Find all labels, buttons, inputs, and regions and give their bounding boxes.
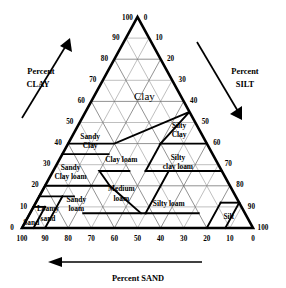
silt-tick-70: 70 — [225, 160, 233, 168]
region-label-silt-line1: Silt — [223, 212, 234, 221]
silt-axis-arrow-shaft — [197, 42, 239, 113]
region-label-sandy-clay-loam-line1: Sandy — [61, 163, 81, 172]
region-label-silt: Silt — [223, 212, 234, 221]
clay-tick-20: 20 — [32, 181, 40, 189]
region-label-sandy-clay: SandyClay — [80, 132, 100, 150]
sand-axis-title: Percent SAND — [112, 274, 164, 283]
clay-tick-60: 60 — [78, 97, 86, 105]
sand-tick-60: 60 — [111, 235, 119, 243]
region-label-sandy-clay-loam: SandyClay loam — [54, 163, 87, 181]
region-label-silty-clay-loam-line1: Silty — [171, 153, 186, 162]
region-label-silty-clay: SiltyClay — [172, 121, 187, 139]
silt-tick-20: 20 — [167, 55, 175, 63]
silt-tick-100: 100 — [258, 224, 269, 232]
sand-tick-0: 0 — [251, 235, 255, 243]
region-label-sand: Sand — [23, 218, 40, 227]
region-label-loamy-sand-line1: Loamy — [37, 204, 59, 213]
clay-tick-70: 70 — [89, 76, 97, 84]
silt-tick-0: 0 — [144, 14, 148, 22]
region-label-loamy-sand: Loamysand — [37, 204, 59, 222]
region-label-silty-loam-line1: Silty loam — [153, 199, 186, 208]
ternary-plot-svg: 1009080706050403020100 01020304050607080… — [0, 0, 286, 288]
sand-axis-tick-labels: 1009080706050403020100 — [17, 235, 256, 243]
soil-texture-triangle-diagram: 1009080706050403020100 01020304050607080… — [0, 0, 286, 288]
clay-axis-title-group: Percent CLAY — [22, 38, 72, 118]
clay-tick-30: 30 — [43, 160, 51, 168]
sand-axis-arrow-head — [48, 257, 62, 267]
region-label-sandy-loam: Sandyloam — [66, 195, 86, 213]
region-label-sandy-clay-loam-line2: Clay loam — [54, 172, 87, 181]
clay-tick-0: 0 — [10, 224, 14, 232]
silt-tick-50: 50 — [202, 118, 210, 126]
sand-tick-90: 90 — [42, 235, 50, 243]
silt-tick-30: 30 — [179, 76, 187, 84]
region-label-medium-loam-line1: Medium — [108, 184, 136, 193]
clay-tick-90: 90 — [112, 34, 120, 42]
region-label-sandy-clay-line2: Clay — [83, 141, 98, 150]
sand-tick-40: 40 — [157, 235, 165, 243]
sand-tick-70: 70 — [88, 235, 96, 243]
silt-axis-title-group: Percent SILT — [197, 42, 259, 120]
clay-tick-50: 50 — [66, 118, 74, 126]
region-label-clay-loam-line1: Clay loam — [105, 155, 138, 164]
silt-axis-title-line1: Percent — [231, 67, 258, 76]
region-label-clay-line1: Clay — [134, 90, 155, 102]
clay-axis-arrow-head — [60, 38, 72, 52]
region-label-clay: Clay — [134, 90, 155, 102]
sand-tick-80: 80 — [65, 235, 73, 243]
region-label-silty-clay-line2: Clay — [172, 130, 187, 139]
clay-tick-10: 10 — [20, 203, 28, 211]
grid-line-silt-70 — [184, 165, 219, 228]
silt-axis-title-line2: SILT — [236, 80, 255, 89]
region-label-silty-clay-loam-line2: clay loam — [163, 162, 194, 171]
sand-tick-100: 100 — [17, 235, 28, 243]
class-boundary-3 — [146, 144, 161, 171]
class-boundary-15 — [207, 203, 221, 228]
clay-tick-100: 100 — [122, 14, 133, 22]
sand-tick-20: 20 — [203, 235, 211, 243]
region-label-sandy-loam-line2: loam — [68, 204, 84, 213]
clay-axis-title-line2: CLAY — [27, 80, 50, 89]
region-label-sandy-clay-line1: Sandy — [80, 132, 100, 141]
sand-tick-50: 50 — [134, 235, 142, 243]
region-label-sand-line1: Sand — [23, 218, 40, 227]
silt-tick-90: 90 — [248, 203, 256, 211]
silt-tick-10: 10 — [155, 34, 163, 42]
sand-axis-title-group: Percent SAND — [48, 257, 202, 283]
silt-tick-40: 40 — [190, 97, 198, 105]
sand-tick-10: 10 — [226, 235, 234, 243]
silt-tick-80: 80 — [236, 181, 244, 189]
region-label-clay-loam: Clay loam — [105, 155, 138, 164]
region-label-loamy-sand-line2: sand — [41, 214, 57, 223]
silt-tick-60: 60 — [213, 139, 221, 147]
region-label-silty-loam: Silty loam — [153, 199, 186, 208]
clay-tick-40: 40 — [55, 139, 63, 147]
region-label-medium-loam: Mediumloam — [108, 184, 136, 202]
region-label-silty-clay-line1: Silty — [172, 121, 187, 130]
region-label-medium-loam-line2: loam — [114, 194, 130, 203]
sand-tick-30: 30 — [180, 235, 188, 243]
clay-tick-80: 80 — [101, 55, 109, 63]
region-label-sandy-loam-line1: Sandy — [66, 195, 86, 204]
